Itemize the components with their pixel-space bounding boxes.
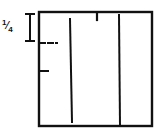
vertical-line-right xyxy=(119,15,120,125)
diagram-canvas xyxy=(0,0,163,137)
vertical-line-left xyxy=(70,19,72,122)
outer-square xyxy=(39,12,152,126)
scale-bar xyxy=(26,14,34,41)
